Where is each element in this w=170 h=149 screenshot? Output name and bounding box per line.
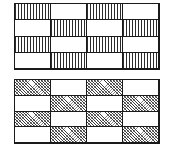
vertical-hatch-checkerboard-figure [14,3,160,70]
grid-cell [122,79,159,96]
grid-cell [14,95,51,112]
grid-cell [14,19,51,36]
grid-cell [86,95,123,112]
grid-cell [50,52,87,69]
grid-cell [122,3,159,20]
grid-cell [14,36,51,53]
grid-cell [86,126,123,143]
grid-cell [50,36,87,53]
grid-cell [86,36,123,53]
grid-cell [14,111,51,128]
grid-cell [86,3,123,20]
grid-cell [122,19,159,36]
grid-cell [50,111,87,128]
grid-cell [122,36,159,53]
grid-cell [14,3,51,20]
grid-cell [86,19,123,36]
grid-cell [50,19,87,36]
grid-cell [86,52,123,69]
grid-cell [50,3,87,20]
grid-cell [50,79,87,96]
grid-cell [122,95,159,112]
figure-container [0,0,170,149]
grid-cell [122,52,159,69]
grid-cell [14,79,51,96]
grid-cell [50,126,87,143]
grid-cell [86,111,123,128]
grid-cell [14,126,51,143]
diagonal-hatch-checkerboard-figure [14,79,160,144]
grid-cell [122,126,159,143]
grid-cell [50,95,87,112]
grid-cell [122,111,159,128]
grid-cell [14,52,51,69]
grid-cell [86,79,123,96]
